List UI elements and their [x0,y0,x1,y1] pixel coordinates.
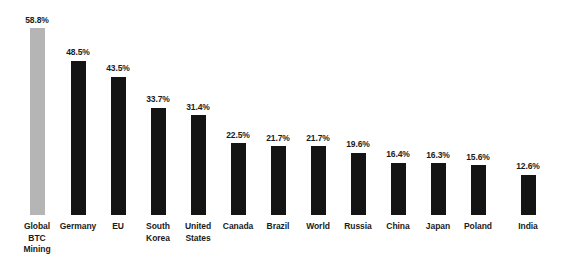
bar-value-label: 19.6% [346,140,370,149]
bar-value-label: 33.7% [146,95,170,104]
category-label: GlobalBTCMining [14,221,60,255]
bar-world[interactable] [311,146,326,215]
bar-brazil[interactable] [271,146,286,215]
bar-value-label: 43.5% [106,64,130,73]
bar-column: 15.6%Poland [455,0,501,267]
bar-value-label: 31.4% [186,103,210,112]
bar-column: 58.8%GlobalBTCMining [14,0,60,267]
bar-value-label: 58.8% [25,16,49,25]
bar-global-btc-mining[interactable] [30,28,45,215]
bar-chart: 58.8%GlobalBTCMining48.5%Germany43.5%EU3… [0,0,562,267]
bar-india[interactable] [521,175,536,215]
bar-value-label: 22.5% [226,131,250,140]
category-label: Poland [455,221,501,232]
category-label-line: India [505,221,551,232]
bar-germany[interactable] [71,61,86,215]
bar-south-korea[interactable] [151,108,166,215]
bar-value-label: 21.7% [266,134,290,143]
bar-value-label: 12.6% [516,162,540,171]
bar-value-label: 21.7% [306,134,330,143]
bar-poland[interactable] [471,165,486,215]
category-label-line: BTC [14,233,60,244]
bar-russia[interactable] [351,153,366,215]
bar-value-label: 16.3% [426,151,450,160]
bar-united-states[interactable] [191,115,206,215]
category-label-line: Mining [14,244,60,255]
category-label: India [505,221,551,232]
bar-column: 12.6%India [505,0,551,267]
bar-value-label: 16.4% [386,150,410,159]
category-label-line: Poland [455,221,501,232]
bar-china[interactable] [391,163,406,215]
category-label-line: Global [14,221,60,232]
bar-value-label: 15.6% [466,153,490,162]
bar-canada[interactable] [231,143,246,215]
bar-japan[interactable] [431,163,446,215]
bar-eu[interactable] [111,77,126,215]
bar-value-label: 48.5% [66,48,90,57]
plot-area: 58.8%GlobalBTCMining48.5%Germany43.5%EU3… [0,0,562,267]
